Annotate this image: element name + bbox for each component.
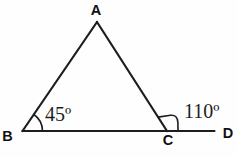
vertex-a-label: A	[91, 2, 102, 18]
angle-arc-b	[34, 115, 43, 132]
triangle-exterior-angle-figure: A B C D 45º 110º	[0, 0, 238, 157]
vertex-b-label: B	[2, 128, 12, 144]
angle-acd-value-label: 110º	[184, 100, 219, 122]
angle-b-value-label: 45º	[45, 103, 71, 125]
vertex-d-label: D	[223, 125, 233, 141]
geometry-diagram-canvas: A B C D 45º 110º	[0, 0, 238, 157]
side-ac-line	[97, 22, 167, 131]
vertex-c-label: C	[163, 132, 174, 148]
